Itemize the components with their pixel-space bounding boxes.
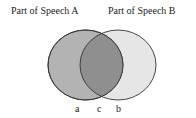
- region-b-label: b: [116, 103, 121, 115]
- venn-diagram: [0, 0, 196, 118]
- region-c-label: c: [97, 103, 101, 115]
- region-a-label: a: [75, 103, 79, 115]
